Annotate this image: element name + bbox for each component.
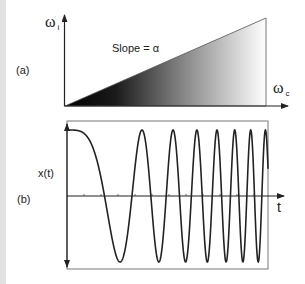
- panel-b-label: (b): [17, 193, 30, 205]
- plot-frame: [67, 121, 268, 269]
- panel-a: ωi ωc Slope = α (a): [16, 13, 290, 106]
- x-of-t-label: x(t): [38, 167, 54, 179]
- omega-c-label: ωc: [273, 79, 290, 98]
- time-label: t: [277, 199, 281, 215]
- panel-b: t x(t) (b): [17, 121, 284, 269]
- panel-a-label: (a): [16, 64, 29, 76]
- frequency-ramp-triangle: [65, 18, 266, 106]
- omega-i-label: ωi: [45, 13, 60, 32]
- chirp-diagram: ωi ωc Slope = α (a) t x(t) (b): [0, 0, 305, 284]
- slope-annotation: Slope = α: [112, 42, 160, 54]
